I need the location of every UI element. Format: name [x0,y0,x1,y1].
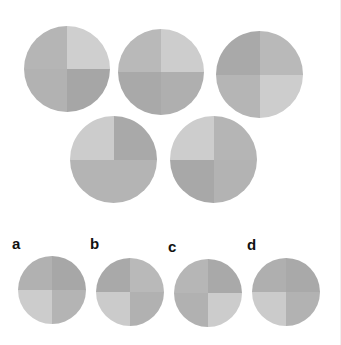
answer-option-d[interactable] [252,258,320,326]
quadrant-bottom-left [174,293,208,327]
quadrant-bottom-left [252,292,286,326]
quadrant-bottom-left [24,69,67,112]
quadrant-top-right [260,31,304,75]
option-label-d: d [247,237,256,252]
quadrant-bottom-right [161,72,204,115]
quadrant-top-left [252,258,286,292]
quadrant-disc-figure [70,116,157,203]
quadrant-top-left [118,29,161,72]
quadrant-bottom-left [96,292,130,326]
quadrant-bottom-left [70,160,114,204]
quadrant-disc-figure [216,31,303,118]
quadrant-bottom-right [214,160,258,204]
quadrant-top-right [52,256,86,290]
quadrant-bottom-left [118,72,161,115]
quadrant-top-left [70,116,114,160]
option-label-a: a [12,236,20,251]
quadrant-bottom-right [114,160,158,204]
quadrant-bottom-left [216,75,260,119]
quadrant-top-left [216,31,260,75]
quadrant-disc-figure [24,26,110,112]
quadrant-top-right [67,26,110,69]
quadrant-top-right [114,116,158,160]
quadrant-bottom-left [170,160,214,204]
quadrant-top-right [286,258,320,292]
quadrant-disc-figure [118,29,204,115]
quadrant-top-right [214,116,258,160]
quadrant-bottom-right [130,292,164,326]
answer-option-a[interactable] [18,256,86,324]
answer-option-c[interactable] [174,259,242,327]
quadrant-top-left [18,256,52,290]
quadrant-bottom-right [208,293,242,327]
quadrant-bottom-right [67,69,110,112]
quadrant-top-left [170,116,214,160]
answer-option-b[interactable] [96,258,164,326]
quadrant-bottom-right [286,292,320,326]
quadrant-bottom-right [52,290,86,324]
quadrant-disc-figure [170,116,257,203]
quadrant-top-left [96,258,130,292]
quadrant-top-left [174,259,208,293]
quadrant-bottom-right [260,75,304,119]
option-label-c: c [168,239,176,254]
option-label-b: b [90,236,99,251]
quadrant-bottom-left [18,290,52,324]
quadrant-top-right [161,29,204,72]
quadrant-top-left [24,26,67,69]
quadrant-top-right [208,259,242,293]
quadrant-top-right [130,258,164,292]
